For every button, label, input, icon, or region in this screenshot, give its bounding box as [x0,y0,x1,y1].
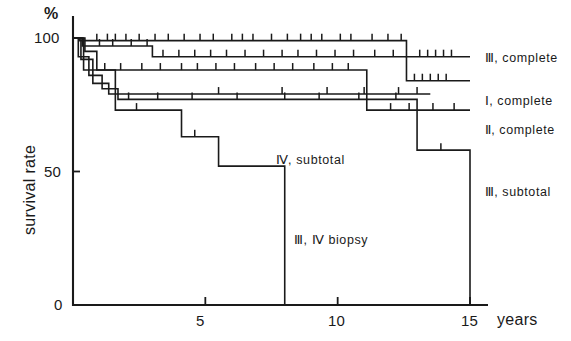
survival-curve-0 [73,38,470,57]
curve-label-5: Ⅲ, Ⅳ biopsy [294,234,368,247]
y-tick-label-100: 100 [34,30,60,45]
curve-label-1: Ⅰ, complete [485,95,553,108]
curve-label-4: Ⅲ, subtotal [485,186,551,199]
survival-curve-5 [73,38,285,305]
chart-canvas: % 100 50 0 5 10 15 survival rate years Ⅲ… [0,0,571,341]
x-tick-label-15: 15 [461,313,478,328]
y-axis-title: survival rate [22,145,38,235]
x-tick-label-10: 10 [328,313,345,328]
curve-layer [73,34,470,305]
curve-label-3: Ⅳ, subtotal [276,154,345,167]
y-tick-label-50: 50 [44,164,61,179]
x-axis-title: years [497,312,538,328]
survival-curve-4 [73,38,470,305]
x-tick-label-5: 5 [196,313,205,328]
survival-curve-1 [73,38,470,81]
curve-label-0: Ⅲ, complete [485,52,558,65]
y-tick-label-0: 0 [54,297,63,312]
curve-label-2: Ⅱ, complete [485,124,555,137]
y-axis-unit-label: % [44,6,58,22]
